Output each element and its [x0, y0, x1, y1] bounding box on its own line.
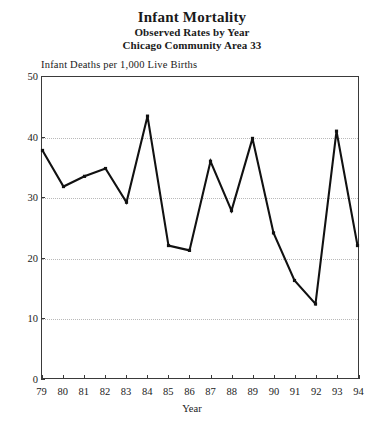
x-tick-mark-87	[211, 375, 212, 379]
x-tick-label-92: 92	[305, 386, 327, 397]
y-tick-mark-0	[41, 379, 45, 380]
x-tick-label-81: 81	[73, 386, 95, 397]
x-tick-mark-94	[359, 375, 360, 379]
x-tick-label-83: 83	[115, 386, 137, 397]
subtitle-line-1: Observed Rates by Year	[0, 26, 384, 39]
x-tick-label-82: 82	[94, 386, 116, 397]
x-tick-mark-82	[105, 375, 106, 379]
x-tick-mark-79	[42, 375, 43, 379]
x-tick-mark-90	[274, 375, 275, 379]
x-tick-mark-89	[253, 375, 254, 379]
y-tick-label-30: 30	[8, 192, 38, 203]
x-tick-mark-92	[316, 375, 317, 379]
x-tick-mark-88	[232, 375, 233, 379]
x-tick-label-90: 90	[263, 386, 285, 397]
x-tick-label-88: 88	[221, 386, 243, 397]
x-tick-label-79: 79	[31, 386, 53, 397]
x-tick-mark-81	[84, 375, 85, 379]
x-tick-mark-91	[295, 375, 296, 379]
x-tick-label-80: 80	[52, 386, 74, 397]
x-tick-label-93: 93	[326, 386, 348, 397]
title-block: Infant Mortality Observed Rates by Year …	[0, 8, 384, 52]
y-tick-label-40: 40	[8, 131, 38, 142]
x-tick-mark-86	[189, 375, 190, 379]
y-axis-title: Infant Deaths per 1,000 Live Births	[41, 59, 197, 70]
x-axis-title: Year	[0, 403, 384, 414]
y-axis-tick-labels: 01020304050	[5, 76, 38, 379]
y-tick-label-50: 50	[8, 71, 38, 82]
x-tick-label-84: 84	[136, 386, 158, 397]
y-tick-label-20: 20	[8, 252, 38, 263]
x-tick-label-86: 86	[178, 386, 200, 397]
x-tick-mark-83	[126, 375, 127, 379]
x-tick-label-85: 85	[157, 386, 179, 397]
y-tick-label-10: 10	[8, 313, 38, 324]
x-tick-mark-85	[168, 375, 169, 379]
x-tick-label-89: 89	[242, 386, 264, 397]
x-tick-label-91: 91	[284, 386, 306, 397]
x-tick-label-94: 94	[348, 386, 370, 397]
page-title: Infant Mortality	[0, 8, 384, 26]
y-tick-label-0: 0	[8, 374, 38, 385]
x-tick-mark-93	[337, 375, 338, 379]
x-tick-label-87: 87	[200, 386, 222, 397]
x-axis-tick-labels: 79808182838485868788899091929394	[41, 383, 359, 397]
x-axis-tick-marks	[41, 76, 359, 379]
x-tick-mark-84	[147, 375, 148, 379]
subtitle-line-2: Chicago Community Area 33	[0, 39, 384, 52]
x-tick-mark-80	[63, 375, 64, 379]
chart-figure: Infant Mortality Observed Rates by Year …	[0, 0, 384, 428]
